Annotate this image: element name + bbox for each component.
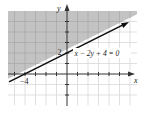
y-axis-label: y (56, 4, 61, 13)
equation-label: x − 2y + 4 = 0 (73, 48, 131, 58)
equation-text: x − 2y + 4 = 0 (74, 49, 120, 58)
x-axis-label: x (133, 76, 138, 85)
tick-label-y-2: 2 (58, 48, 62, 57)
tick-label-x-neg4: −4 (20, 77, 29, 86)
inequality-graph: y x 2 −4 x − 2y + 4 = 0 (0, 0, 147, 116)
y-axis-arrow-icon (65, 4, 70, 11)
